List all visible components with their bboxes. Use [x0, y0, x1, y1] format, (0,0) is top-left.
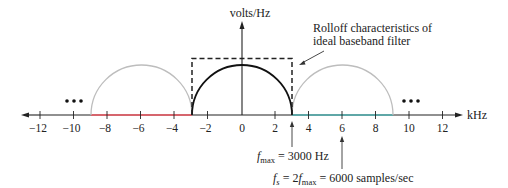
x-tick-labels: −12 −10 −8 −6 −4 −2 0 2 4 6 8 10 12: [29, 122, 449, 134]
svg-text:10: 10: [403, 122, 415, 134]
ellipsis-left: [65, 99, 83, 103]
fs-label: fs = 2fmax = 6000 samples/sec: [273, 171, 414, 187]
svg-text:8: 8: [373, 122, 379, 134]
svg-text:4: 4: [306, 122, 312, 134]
image-spectrum-negative: [91, 65, 192, 115]
svg-text:−12: −12: [29, 122, 47, 134]
filter-annotation-line2: ideal baseband filter: [313, 34, 410, 48]
right-arrow-icon: [455, 113, 463, 118]
y-axis-label: volts/Hz: [230, 6, 271, 20]
spectrum-diagram: −12 −10 −8 −6 −4 −2 0 2 4 6 8 10 12 kHz …: [0, 0, 508, 188]
svg-text:−8: −8: [99, 122, 111, 134]
fmax-label: fmax = 3000 Hz: [257, 149, 329, 165]
svg-text:12: 12: [437, 122, 449, 134]
up-arrow-icon: [240, 21, 245, 29]
svg-text:−4: −4: [166, 122, 178, 134]
fmax-arrow-head-icon: [290, 121, 294, 127]
filter-annotation-line1: Rolloff characteristics of: [313, 21, 432, 35]
svg-text:−6: −6: [132, 122, 144, 134]
filter-annotation-arrow: [302, 51, 324, 63]
amplitude-axis: [240, 21, 245, 115]
svg-text:2: 2: [272, 122, 278, 134]
svg-text:−2: −2: [199, 122, 211, 134]
fs-arrow-head-icon: [340, 136, 344, 142]
svg-text:−10: −10: [63, 122, 81, 134]
x-axis-unit-label: kHz: [467, 108, 487, 122]
svg-text:0: 0: [239, 122, 245, 134]
image-spectrum-positive: [292, 65, 393, 115]
left-arrow-icon: [21, 113, 29, 118]
ellipsis-right: [402, 99, 420, 103]
svg-text:6: 6: [339, 122, 345, 134]
